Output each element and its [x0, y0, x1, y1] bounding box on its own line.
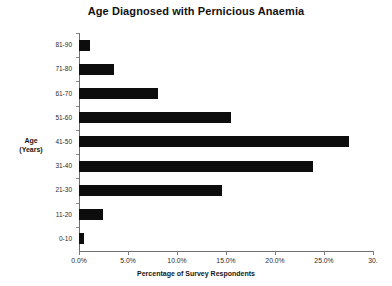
x-axis-tick-label: 5.0% — [120, 257, 136, 264]
bar-71-80 — [79, 64, 114, 75]
y-axis-tick-label: 21-30 — [55, 186, 72, 194]
y-axis-tick-label: 61-70 — [55, 90, 72, 98]
y-axis-tick-label: 71-80 — [55, 65, 72, 73]
y-axis-tick-label: 31-40 — [55, 162, 72, 170]
bar-0-10 — [79, 233, 84, 244]
y-axis-tick-label: 81-90 — [55, 41, 72, 49]
y-axis-tick — [76, 227, 79, 228]
bar-31-40 — [79, 161, 313, 172]
x-axis-tick-label: 30. — [368, 257, 377, 264]
bar-chart: Age Diagnosed with Pernicious Anaemia Ag… — [0, 0, 392, 286]
bar-81-90 — [79, 40, 90, 51]
y-axis-tick-label: 0-10 — [59, 235, 72, 243]
x-axis-tick — [177, 251, 178, 255]
y-axis-tick — [76, 106, 79, 107]
y-axis-title: Age (Years) — [8, 136, 54, 154]
bar-category-61-70: 61-70 — [79, 81, 373, 105]
bar-category-51-60: 51-60 — [79, 106, 373, 130]
y-axis-tick-label: 11-20 — [56, 211, 72, 219]
x-axis-tick — [324, 251, 325, 255]
y-axis-tick — [76, 57, 79, 58]
y-axis-tick — [76, 81, 79, 82]
x-axis-tick — [79, 251, 80, 255]
x-axis-tick — [275, 251, 276, 255]
x-axis-tick-label: 0.0% — [71, 257, 87, 264]
x-axis-tick — [373, 251, 374, 255]
x-axis-tick — [226, 251, 227, 255]
y-axis-title-line-1: Age — [8, 136, 54, 145]
bar-category-41-50: 41-50 — [79, 130, 373, 154]
x-axis-title: Percentage of Survey Respondents — [0, 270, 392, 277]
y-axis-tick-label: 51-60 — [55, 114, 72, 122]
y-axis-tick — [76, 130, 79, 131]
x-axis-tick — [128, 251, 129, 255]
chart-title: Age Diagnosed with Pernicious Anaemia — [0, 5, 392, 17]
bar-category-71-80: 71-80 — [79, 57, 373, 81]
x-axis-tick-label: 20.0% — [265, 257, 284, 264]
y-axis-tick — [76, 178, 79, 179]
y-axis-tick — [76, 33, 79, 34]
x-axis-tick-label: 15.0% — [216, 257, 235, 264]
bar-category-11-20: 11-20 — [79, 203, 373, 227]
x-axis-tick-label: 10.0% — [167, 257, 186, 264]
bar-category-21-30: 21-30 — [79, 178, 373, 202]
y-axis-tick — [76, 203, 79, 204]
bar-category-31-40: 31-40 — [79, 154, 373, 178]
x-axis-tick-label: 25.0% — [314, 257, 333, 264]
y-axis-title-line-2: (Years) — [8, 145, 54, 154]
bar-11-20 — [79, 209, 103, 220]
plot-area: 0-1011-2021-3031-4041-5051-6061-7071-808… — [79, 33, 373, 251]
bar-51-60 — [79, 112, 231, 123]
bar-61-70 — [79, 88, 158, 99]
bar-41-50 — [79, 136, 349, 147]
y-axis-tick — [76, 154, 79, 155]
bar-category-0-10: 0-10 — [79, 227, 373, 251]
bar-category-81-90: 81-90 — [79, 33, 373, 57]
bar-21-30 — [79, 185, 222, 196]
y-axis-tick-label: 41-50 — [55, 138, 72, 146]
